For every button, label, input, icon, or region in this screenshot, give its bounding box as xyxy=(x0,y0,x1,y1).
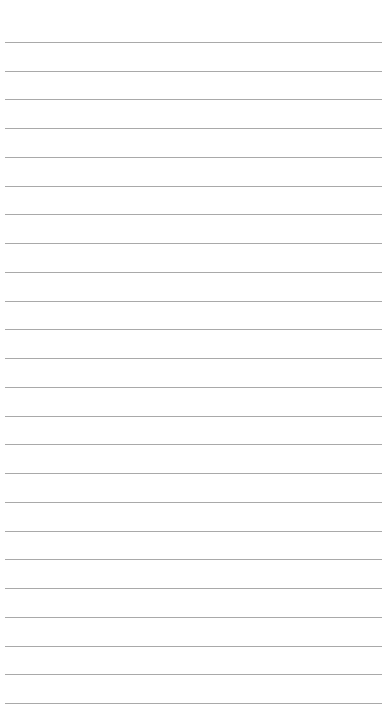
ruled-line xyxy=(5,128,382,129)
ruled-line xyxy=(5,416,382,417)
lined-paper-page xyxy=(0,0,382,719)
ruled-line xyxy=(5,473,382,474)
ruled-line xyxy=(5,531,382,532)
ruled-line xyxy=(5,243,382,244)
ruled-line xyxy=(5,358,382,359)
ruled-line xyxy=(5,559,382,560)
ruled-line xyxy=(5,99,382,100)
ruled-line xyxy=(5,272,382,273)
ruled-line xyxy=(5,617,382,618)
ruled-line xyxy=(5,301,382,302)
ruled-line xyxy=(5,703,382,704)
ruled-line xyxy=(5,214,382,215)
ruled-line xyxy=(5,186,382,187)
ruled-line xyxy=(5,444,382,445)
ruled-line xyxy=(5,674,382,675)
ruled-line xyxy=(5,387,382,388)
ruled-line xyxy=(5,329,382,330)
ruled-line xyxy=(5,502,382,503)
ruled-line xyxy=(5,588,382,589)
ruled-line xyxy=(5,646,382,647)
ruled-line xyxy=(5,157,382,158)
ruled-line xyxy=(5,71,382,72)
ruled-line xyxy=(5,42,382,43)
